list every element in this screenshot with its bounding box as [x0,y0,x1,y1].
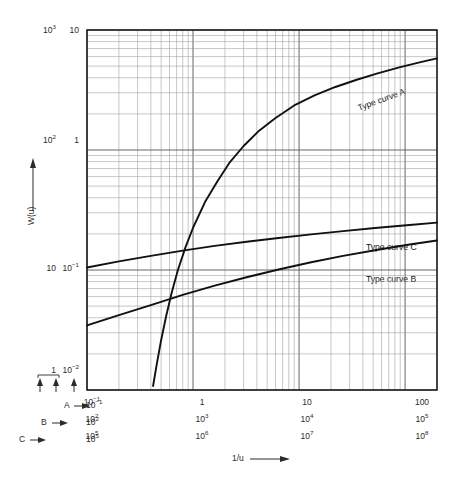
plot-frame [87,30,437,390]
curve-type-curve-a [153,58,437,386]
scale-key-h-arrow-head-1 [60,420,68,426]
scale-key-h-arrow-head-2 [38,437,46,443]
scale-key-up-arrow-head-1 [53,378,59,386]
scale-key-up-arrow-head-0 [37,378,43,386]
curve-type-curve-c [87,223,437,268]
scale-key-h-arrow-head-0 [82,403,90,409]
chart-canvas: 103 102 10 1 10 1 10−1 10−2 W(u) 10−1 1 … [0,0,462,483]
curve-type-curve-b [87,241,437,326]
x-axis-arrow-head [280,456,290,462]
plot-svg [0,0,462,483]
scale-key-up-arrow-head-2 [71,378,77,386]
scale-key-bracket [38,375,59,378]
y-axis-arrow-head [30,158,36,168]
